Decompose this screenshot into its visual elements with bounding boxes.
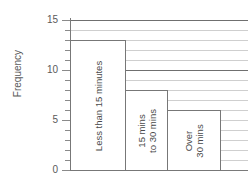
bar-over-30-mins[interactable]: Over 30 mins [167, 110, 221, 171]
bars-group: Less than 15 minutes 15 mins to 30 mins … [0, 0, 248, 177]
bar-label-1: 15 mins to 30 mins [136, 109, 158, 153]
bar-15-to-30-mins[interactable]: 15 mins to 30 mins [125, 90, 168, 171]
bar-chart: 15 10 5 0 Frequency Less than 15 minutes… [0, 0, 248, 177]
bar-label-2: Over 30 mins [183, 124, 205, 157]
bar-label-0: Less than 15 minutes [93, 60, 104, 150]
bar-less-than-15-minutes[interactable]: Less than 15 minutes [70, 40, 126, 171]
